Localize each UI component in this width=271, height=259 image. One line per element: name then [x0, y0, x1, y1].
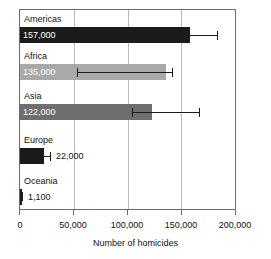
category-label-asia: Asia — [24, 91, 42, 102]
x-axis-title: Number of homicides — [0, 238, 271, 249]
category-label-africa: Africa — [24, 51, 47, 62]
xtick-mark-150000 — [181, 210, 182, 215]
xtick-mark-50000 — [73, 210, 74, 215]
homicides-bar-chart: Americas 157,000 Africa 135,000 Asia 122… — [0, 0, 271, 259]
xtick-mark-0 — [19, 210, 20, 215]
error-bar-cap-high-europe — [50, 152, 51, 161]
xtick-label-200000: 200,000 — [219, 220, 252, 230]
bar-value-europe: 22,000 — [56, 151, 84, 162]
error-bar-cap-oceania — [22, 192, 23, 201]
bar-europe — [20, 148, 44, 164]
xtick-label-50000: 50,000 — [59, 220, 87, 230]
error-bar-cap-low-europe — [43, 152, 44, 161]
error-bar-cap-low-asia — [132, 108, 133, 117]
bar-value-asia: 122,000 — [23, 107, 56, 118]
bar-value-americas: 157,000 — [23, 30, 56, 41]
xtick-label-100000: 100,000 — [111, 220, 144, 230]
category-label-europe: Europe — [24, 135, 53, 146]
error-bar-cap-high-americas — [217, 31, 218, 40]
error-bar-line-americas — [179, 35, 217, 36]
xtick-mark-200000 — [235, 210, 236, 215]
category-label-americas: Americas — [24, 14, 62, 25]
error-bar-cap-low-africa — [77, 68, 78, 77]
category-label-oceania: Oceania — [24, 176, 58, 187]
xtick-mark-100000 — [127, 210, 128, 215]
error-bar-cap-low-americas — [179, 31, 180, 40]
bar-value-oceania: 1,100 — [28, 192, 51, 203]
plot-area: Americas 157,000 Africa 135,000 Asia 122… — [19, 9, 236, 210]
error-bar-line-africa — [77, 72, 172, 73]
error-bar-line-europe — [43, 156, 50, 157]
xtick-label-0: 0 — [17, 220, 22, 230]
xtick-label-150000: 150,000 — [165, 220, 198, 230]
error-bar-cap-high-asia — [199, 108, 200, 117]
error-bar-cap-high-africa — [172, 68, 173, 77]
bar-value-africa: 135,000 — [23, 67, 56, 78]
error-bar-line-asia — [132, 112, 199, 113]
